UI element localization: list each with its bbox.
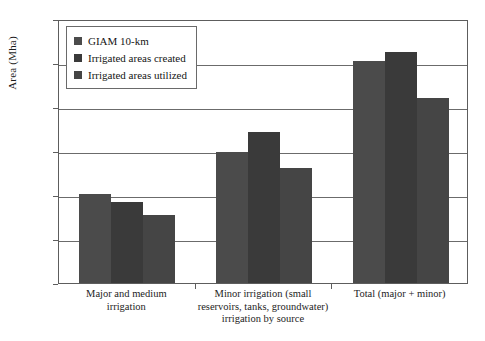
bar bbox=[111, 202, 143, 283]
bar bbox=[280, 168, 312, 284]
x-category-label-line: irrigation by source bbox=[185, 313, 342, 326]
x-category-label-line: Major and medium bbox=[48, 288, 205, 301]
x-category-label: Total (major + minor) bbox=[321, 288, 478, 301]
bar bbox=[385, 52, 417, 283]
bar bbox=[353, 61, 385, 283]
bar bbox=[79, 194, 111, 283]
x-category-label: Major and mediumirrigation bbox=[48, 288, 205, 313]
legend: GIAM 10-km Irrigated areas created Irrig… bbox=[66, 26, 197, 89]
legend-item: GIAM 10-km bbox=[74, 32, 187, 49]
bar bbox=[248, 132, 280, 283]
legend-swatch-icon bbox=[74, 54, 82, 62]
legend-swatch-icon bbox=[74, 37, 82, 45]
bar-group bbox=[332, 21, 469, 283]
bar-chart: Area (Mha) 020406080100120 Major and med… bbox=[0, 0, 485, 341]
bar bbox=[216, 152, 248, 283]
bar bbox=[143, 215, 175, 283]
legend-item: Irrigated areas created bbox=[74, 49, 187, 66]
x-category-label-line: Minor irrigation (small bbox=[185, 288, 342, 301]
x-category-label-line: Total (major + minor) bbox=[321, 288, 478, 301]
x-category-label-line: reservoirs, tanks, groundwater) bbox=[185, 301, 342, 314]
legend-item: Irrigated areas utilized bbox=[74, 66, 187, 83]
y-tick-mark bbox=[53, 284, 58, 285]
legend-item-label: GIAM 10-km bbox=[88, 35, 149, 47]
legend-swatch-icon bbox=[74, 71, 82, 79]
bar bbox=[417, 98, 449, 283]
legend-item-label: Irrigated areas utilized bbox=[88, 69, 187, 81]
legend-item-label: Irrigated areas created bbox=[88, 52, 186, 64]
x-category-label: Minor irrigation (smallreservoirs, tanks… bbox=[185, 288, 342, 326]
bar-group bbox=[196, 21, 333, 283]
x-category-label-line: irrigation bbox=[48, 301, 205, 314]
y-axis-title: Area (Mha) bbox=[6, 8, 18, 118]
